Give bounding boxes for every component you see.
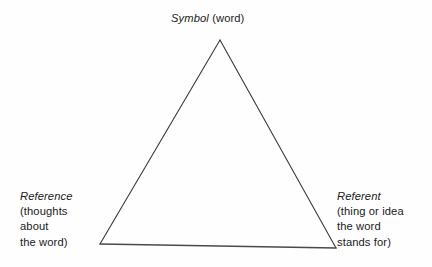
reference-gloss-line-1: (thoughts: [20, 204, 73, 219]
node-label-symbol: Symbol (word): [171, 11, 244, 26]
symbol-gloss: (word): [212, 12, 244, 24]
referent-gloss-line-1: (thing or idea: [337, 204, 404, 219]
referent-gloss-line-3: stands for): [337, 235, 404, 250]
node-label-referent: Referent (thing or idea the word stands …: [337, 189, 404, 250]
triangle-left-side: [100, 40, 220, 244]
node-label-reference: Reference (thoughts about the word): [20, 189, 73, 250]
symbol-line: Symbol (word): [171, 11, 244, 26]
symbol-term: Symbol: [171, 12, 209, 24]
reference-gloss-line-2: about: [20, 219, 73, 234]
triangle-base-side: [100, 244, 336, 248]
referent-term: Referent: [337, 189, 404, 204]
reference-gloss-line-3: the word): [20, 235, 73, 250]
referent-gloss-line-2: the word: [337, 219, 404, 234]
triangle-right-side: [220, 40, 336, 248]
reference-term: Reference: [20, 189, 73, 204]
semiotic-triangle-diagram: Symbol (word) Reference (thoughts about …: [0, 0, 432, 267]
